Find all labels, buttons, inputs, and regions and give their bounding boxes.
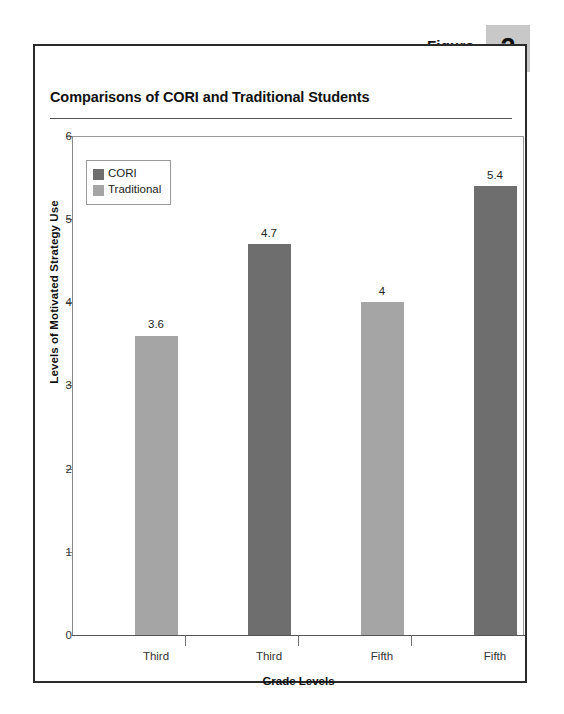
legend-label-traditional: Traditional — [108, 184, 161, 196]
x-tick-mark-1 — [185, 635, 186, 646]
y-tick-label: 5 — [56, 213, 72, 225]
y-tick-label: 1 — [56, 546, 72, 558]
bar-third-traditional[interactable] — [135, 336, 178, 635]
y-tick-label: 3 — [56, 379, 72, 391]
y-tick-label: 6 — [56, 130, 72, 142]
bar-chart: Levels of Motivated Strategy Use 6 5 4 3… — [35, 46, 529, 685]
x-category-label-2: Third — [256, 650, 282, 662]
y-tick-label: 2 — [56, 463, 72, 475]
bar-value-label-4: 5.4 — [487, 169, 503, 181]
x-category-label-3: Fifth — [371, 650, 393, 662]
legend-swatch-icon-cori — [93, 169, 104, 180]
chart-legend: CORI Traditional — [86, 160, 171, 205]
legend-label-cori: CORI — [108, 168, 137, 180]
x-category-label-1: Third — [143, 650, 169, 662]
x-tick-mark-2 — [298, 635, 299, 646]
y-tick-label: 4 — [56, 296, 72, 308]
bar-fifth-cori[interactable] — [474, 186, 517, 635]
x-category-label-4: Fifth — [484, 650, 506, 662]
figure-panel: Comparisons of CORI and Traditional Stud… — [33, 44, 527, 683]
bar-value-label-2: 4.7 — [261, 227, 277, 239]
bars-layer — [73, 136, 525, 635]
bar-fifth-traditional[interactable] — [361, 302, 404, 635]
x-axis-title: Grade Levels — [72, 675, 525, 687]
legend-swatch-icon-traditional — [93, 185, 104, 196]
legend-item-traditional[interactable]: Traditional — [93, 182, 161, 198]
bar-value-label-3: 4 — [379, 285, 385, 297]
x-tick-mark-3 — [411, 635, 412, 646]
bar-value-label-1: 3.6 — [148, 318, 164, 330]
y-tick-label: 0 — [56, 629, 72, 641]
legend-item-cori[interactable]: CORI — [93, 166, 161, 182]
bar-third-cori[interactable] — [248, 244, 291, 635]
